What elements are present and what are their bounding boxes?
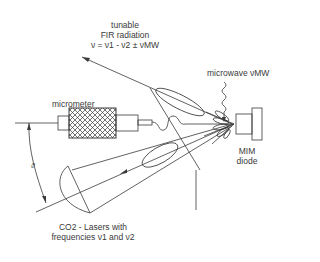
fir-radiation-label: tunable FIR radiation ν = ν1 - ν2 ± νMW [80,20,170,50]
fir-label-line1: tunable [80,20,170,30]
mim-label-line2: diode [227,156,267,166]
micrometer-thimble [69,108,116,138]
mim-label-line1: MIM [227,146,267,156]
fir-label-line2: FIR radiation [80,30,170,40]
fir-beam-lobe [153,84,207,121]
co2-lasers-label: CO2 - Lasers with frequencies ν1 and ν2 [38,222,148,242]
diode-post [236,114,252,134]
mim-diode-label: MIM diode [227,146,267,166]
whisker-wire [152,116,234,130]
diode-radiation-lobes [204,109,234,144]
lasers-label-line2: frequencies ν1 and ν2 [38,232,148,242]
lasers-label-line1: CO2 - Lasers with [38,222,148,232]
diode-mount [252,108,262,140]
laser-focus-lobe [139,138,182,172]
angle-label: ϑ [31,161,35,171]
fir-formula: ν = ν1 - ν2 ± νMW [80,40,170,50]
laser-beam-lower [90,126,232,213]
micrometer-spindle [138,120,152,125]
co2-laser-mirror [60,166,90,213]
micrometer-barrel [116,115,138,131]
micrometer-label: micrometer [52,99,95,109]
microwave-label: microwave νMW [207,68,269,78]
micrometer-sleeve [58,116,69,130]
